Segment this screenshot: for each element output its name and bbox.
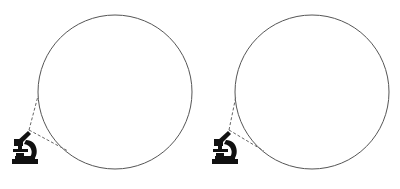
view-line-upper [29, 96, 38, 130]
microscope-icon [12, 131, 38, 164]
magnified-view-left [0, 0, 200, 189]
field-of-view-circle [235, 15, 389, 169]
diagram-description: Two identical magnified-view diagrams: a… [0, 188, 54, 189]
field-of-view-circle [38, 15, 192, 169]
microscope-icon [212, 131, 238, 164]
diagram-panel-right [200, 0, 400, 189]
view-line-upper [229, 96, 236, 130]
magnified-view-right [200, 0, 400, 189]
diagram-panel-left [0, 0, 200, 189]
